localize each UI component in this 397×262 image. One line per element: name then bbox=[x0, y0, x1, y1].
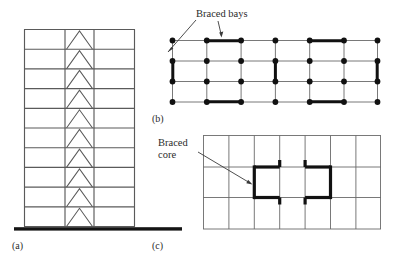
caption-b: (b) bbox=[152, 113, 164, 125]
panel-a-ground-line bbox=[14, 227, 182, 230]
braced-core-label-line1: Braced bbox=[158, 137, 188, 148]
braced-core-label-line2: core bbox=[158, 149, 176, 160]
braced-bays-label: Braced bays bbox=[196, 8, 248, 19]
caption-c: (c) bbox=[152, 240, 163, 252]
structural-bracing-figure: (a) bbox=[0, 0, 397, 262]
figure-root: (a) bbox=[0, 0, 397, 262]
caption-a: (a) bbox=[12, 240, 23, 252]
